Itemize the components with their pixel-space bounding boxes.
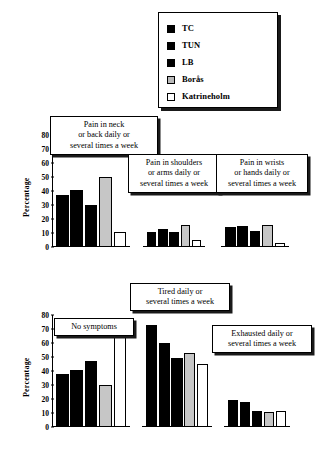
legend-label: LB xyxy=(182,58,194,67)
chart-title-pain-wrists-hands: Pain in wrists or hands daily or several… xyxy=(216,154,308,193)
legend-label: Katrineholm xyxy=(182,92,230,101)
bar-bors xyxy=(264,412,274,427)
bar-tun xyxy=(70,190,83,247)
bar-katrineholm xyxy=(276,411,286,428)
chart-title-pain-shoulders-arms: Pain in shoulders or arms daily or sever… xyxy=(128,154,220,193)
bar-lb xyxy=(85,205,98,247)
bar-tc xyxy=(56,195,69,247)
legend-label: TC xyxy=(182,24,194,33)
y-axis-title: Percentage xyxy=(22,357,31,397)
legend-label: TUN xyxy=(182,41,200,50)
y-axis-title: Percentage xyxy=(22,177,31,217)
plot-area xyxy=(224,372,290,427)
plot-area xyxy=(143,195,205,247)
bar-bors xyxy=(99,177,112,247)
bar-bors xyxy=(262,225,273,247)
bar-katrineholm xyxy=(114,232,127,247)
bar-tc xyxy=(56,374,69,427)
bar-tun xyxy=(159,343,170,427)
bar-lb xyxy=(85,361,98,427)
chart-panel-pain-shoulders-arms xyxy=(143,195,205,247)
bar-katrineholm xyxy=(192,240,201,247)
bar-lb xyxy=(169,232,178,247)
bar-tun xyxy=(237,226,248,247)
chart-title-exhausted: Exhausted daily or several times a week xyxy=(212,325,312,353)
bar-tun xyxy=(70,370,83,427)
chart-title-no-symptoms: No symptoms xyxy=(54,318,134,336)
bar-tun xyxy=(158,229,167,247)
bar-tc xyxy=(225,227,236,247)
bar-katrineholm xyxy=(275,243,286,247)
bar-lb xyxy=(250,231,261,247)
chart-panel-pain-wrists-hands xyxy=(221,195,289,247)
chart-title-pain-neck-back: Pain in neck or back daily or several ti… xyxy=(50,116,158,155)
bar-tc xyxy=(228,400,238,428)
bar-katrineholm xyxy=(197,364,208,427)
legend-swatch-gray xyxy=(167,76,175,84)
legend-swatch-black xyxy=(167,42,175,50)
legend-swatch-black xyxy=(167,59,175,67)
legend-item-lb: LB xyxy=(167,54,277,71)
legend-item-tc: TC xyxy=(167,20,277,37)
bar-tc xyxy=(146,325,157,427)
bar-bors xyxy=(181,225,190,247)
bar-katrineholm xyxy=(114,333,127,427)
chart-panel-exhausted xyxy=(224,372,290,427)
bar-bors xyxy=(99,385,112,427)
legend-swatch-white xyxy=(167,93,175,101)
legend-item-tun: TUN xyxy=(167,37,277,54)
chart-panel-tired xyxy=(142,315,212,427)
plot-area xyxy=(221,195,289,247)
legend-label: Borås xyxy=(182,75,204,84)
legend: TCTUNLBBoråsKatrineholm xyxy=(158,12,278,108)
bar-tc xyxy=(147,232,156,247)
bar-bors xyxy=(184,353,195,427)
legend-item-katrineholm: Katrineholm xyxy=(167,88,277,105)
bar-lb xyxy=(252,411,262,427)
plot-area xyxy=(142,315,212,427)
legend-swatch-black xyxy=(167,25,175,33)
chart-title-tired: Tired daily or several times a week xyxy=(130,283,230,311)
bar-tun xyxy=(240,402,250,427)
legend-item-bors: Borås xyxy=(167,71,277,88)
bar-lb xyxy=(171,358,182,427)
